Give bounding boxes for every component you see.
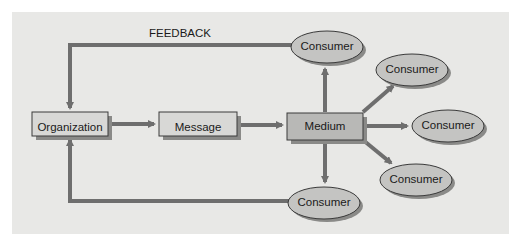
node-consumer-lower-right-label: Consumer: [389, 173, 442, 185]
node-consumer-bottom-label: Consumer: [297, 196, 350, 208]
feedback-arrow-top: [70, 45, 292, 108]
node-organization: Organization: [32, 112, 112, 140]
node-medium: Medium: [287, 113, 367, 144]
node-consumer-upper-right: Consumer: [376, 54, 451, 89]
node-consumer-right: Consumer: [412, 110, 487, 145]
node-consumer-upper-right-label: Consumer: [385, 63, 438, 75]
node-consumer-lower-right: Consumer: [380, 164, 455, 199]
node-message: Message: [159, 112, 241, 140]
feedback-arrow-bottom: [70, 140, 290, 201]
node-consumer-top: Consumer: [291, 31, 366, 66]
communication-flow-diagram: Organization Message Medium Consumer Con…: [0, 0, 519, 245]
arrow-medium-to-consumer-upper-right: [363, 86, 393, 112]
node-organization-label: Organization: [37, 121, 102, 133]
feedback-label: FEEDBACK: [149, 27, 211, 39]
node-consumer-right-label: Consumer: [421, 119, 474, 131]
node-consumer-bottom: Consumer: [288, 187, 363, 222]
node-medium-label: Medium: [305, 120, 346, 132]
arrow-medium-to-consumer-lower-right: [363, 140, 391, 163]
node-message-label: Message: [175, 121, 222, 133]
node-consumer-top-label: Consumer: [300, 40, 353, 52]
